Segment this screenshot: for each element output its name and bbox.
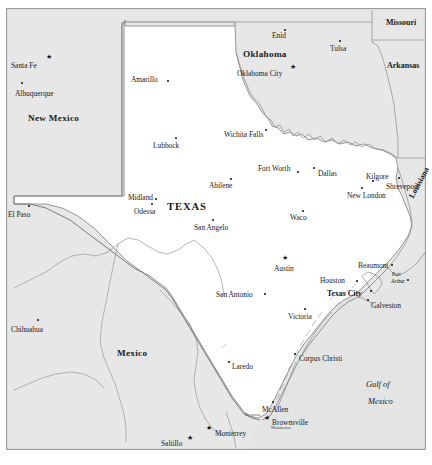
city-label-galveston: Galveston (371, 302, 401, 309)
city-label-mcallen: McAllen (262, 406, 288, 413)
water-label-gulf-of: Gulf of (366, 381, 390, 389)
map-layers (0, 0, 432, 465)
city-label-fort-worth: Fort Worth (258, 165, 290, 172)
city-label-corpus-christi: Corpus Christi (299, 355, 342, 362)
city-label-abilene: Abilene (209, 182, 232, 189)
city-label-victoria: Victoria (288, 313, 312, 320)
city-label-new-london: New London (347, 192, 386, 199)
city-label-matamoros: Matamoros (271, 426, 291, 430)
city-label-waco: Waco (290, 214, 307, 221)
city-label-dallas: Dallas (318, 170, 337, 177)
city-label-tulsa: Tulsa (330, 45, 346, 52)
city-label-lubbock: Lubbock (153, 142, 179, 149)
water-label-mexico: Mexico (368, 398, 393, 406)
city-label-chihuahua: Chihuahua (11, 326, 43, 333)
capital-marker-brownsville: ★ (264, 415, 270, 422)
city-label-el-paso: El Paso (8, 211, 30, 218)
city-label-santa-fe: Santa Fe (11, 62, 37, 69)
city-label-port: Port (392, 272, 401, 277)
city-label-odessa: Odessa (134, 208, 155, 215)
map-container: New MexicoOklahomaMissouriArkansasTEXASM… (0, 0, 432, 465)
capital-marker-santa-fe: ★ (46, 54, 52, 61)
city-label-saltillo: Saltillo (161, 440, 182, 447)
city-label-reynosa: Reynosa (245, 413, 260, 417)
city-label-laredo: Laredo (232, 363, 253, 370)
state-label-arkansas: Arkansas (387, 62, 419, 70)
city-label-texas-city: Texas City (327, 290, 362, 298)
state-label-oklahoma: Oklahoma (243, 50, 287, 59)
city-label-arthur: Arthur (391, 279, 405, 284)
capital-marker-saltillo: ★ (187, 435, 193, 442)
city-label-monterrey: Monterrey (215, 430, 246, 437)
city-label-san-antonio: San Antonio (216, 291, 253, 298)
city-label-austin: Austin (274, 265, 294, 272)
state-label-mexico: Mexico (117, 349, 147, 358)
city-label-midland: Midland (128, 194, 153, 201)
city-label-albuquerque: Albuquerque (15, 90, 54, 97)
city-label-shreveport: Shreveport (386, 183, 418, 190)
state-label-texas: TEXAS (167, 202, 207, 213)
map-graphic (0, 0, 432, 465)
state-label-missouri: Missouri (386, 19, 416, 27)
capital-marker-monterrey: ★ (206, 425, 212, 432)
city-label-wichita-falls: Wichita Falls (224, 131, 263, 138)
city-label-kilgore: Kilgore (366, 173, 389, 180)
state-label-new-mexico: New Mexico (28, 114, 79, 123)
capital-marker-austin: ★ (282, 255, 288, 262)
city-label-oklahoma-city: Oklahoma City (237, 70, 282, 77)
city-label-beaumont: Beaumont (358, 262, 388, 269)
city-label-san-angelo: San Angelo (194, 224, 228, 231)
capital-marker-oklahoma-city: ★ (290, 64, 296, 71)
city-label-amarillo: Amarillo (131, 76, 158, 83)
city-label-enid: Enid (272, 32, 286, 39)
city-label-houston: Houston (320, 277, 345, 284)
